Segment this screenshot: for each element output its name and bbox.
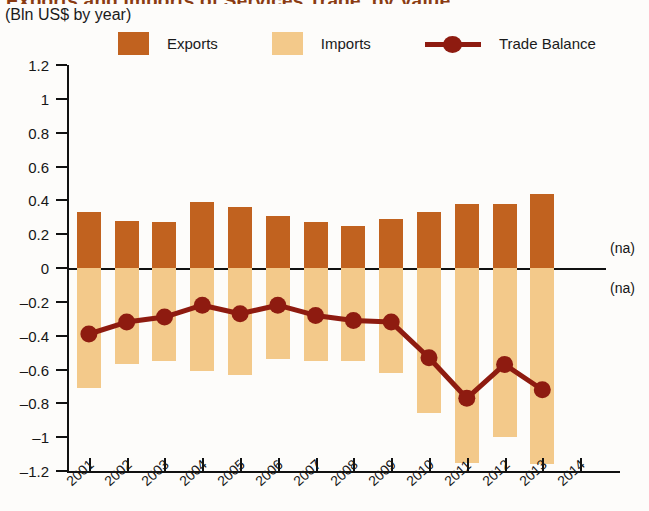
trade-balance-line-layer bbox=[0, 0, 649, 511]
trade-balance-marker-2006 bbox=[269, 297, 286, 314]
trade-balance-marker-2013 bbox=[534, 381, 551, 398]
trade-balance-marker-2012 bbox=[496, 356, 513, 373]
trade-balance-marker-2010 bbox=[421, 349, 438, 366]
trade-balance-marker-2005 bbox=[232, 305, 249, 322]
trade-balance-marker-2007 bbox=[307, 307, 324, 324]
trade-balance-marker-2009 bbox=[383, 314, 400, 331]
trade-balance-marker-2011 bbox=[458, 390, 475, 407]
chart-plot-area: 1.210.80.60.40.20–0.2–0.4–0.6–0.8–1–1.2(… bbox=[0, 0, 649, 511]
trade-balance-marker-2003 bbox=[156, 309, 173, 326]
trade-balance-marker-2002 bbox=[118, 314, 135, 331]
trade-balance-marker-2008 bbox=[345, 312, 362, 329]
trade-balance-marker-2001 bbox=[80, 326, 97, 343]
trade-balance-marker-2004 bbox=[194, 297, 211, 314]
